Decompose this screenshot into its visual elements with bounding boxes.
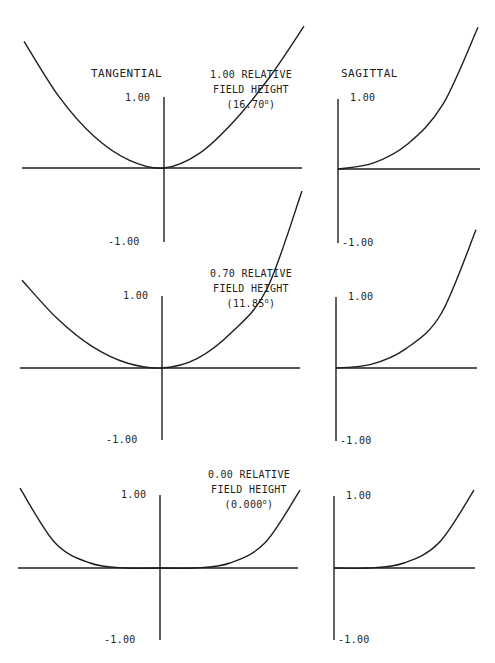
panel-2-field-angle: (11.85o): [196, 296, 306, 311]
panel-2-tangential: [20, 191, 302, 440]
sagittal-header: SAGITTAL: [341, 68, 398, 80]
panel-1-tangential-y-min: -1.00: [108, 236, 140, 248]
ray-aberration-figure: TANGENTIAL SAGITTAL 1.00 RELATIVE FIELD …: [0, 0, 495, 663]
panel-2-tangential-y-min: -1.00: [106, 434, 138, 446]
panel-2-sagittal: [336, 230, 477, 441]
panel-1-sagittal-y-max: 1.00: [350, 92, 375, 104]
panel-2-field-relative: 0.70 RELATIVE: [196, 266, 306, 281]
panel-1-field-angle: (16.70o): [196, 97, 306, 112]
panel-3-field-height: FIELD HEIGHT: [194, 482, 304, 497]
panel-1-field-height: FIELD HEIGHT: [196, 82, 306, 97]
panel-3-field-angle: (0.000o): [194, 497, 304, 512]
panel-3-sagittal-y-max: 1.00: [346, 490, 371, 502]
panel-2-sagittal-y-min: -1.00: [340, 435, 372, 447]
panel-3-sagittal-y-min: -1.00: [338, 634, 370, 646]
panel-3-field-relative: 0.00 RELATIVE: [194, 467, 304, 482]
tangential-header: TANGENTIAL: [91, 68, 162, 80]
panel-2-tangential-y-max: 1.00: [123, 290, 148, 302]
panel-1-sagittal-y-min: -1.00: [342, 237, 374, 249]
panel-1-field-label: 1.00 RELATIVE FIELD HEIGHT (16.70o): [196, 67, 306, 112]
panel-3-tangential-y-min: -1.00: [104, 634, 136, 646]
panel-1-tangential-y-max: 1.00: [125, 92, 150, 104]
panel-3-field-label: 0.00 RELATIVE FIELD HEIGHT (0.000o): [194, 467, 304, 512]
panel-1-field-relative: 1.00 RELATIVE: [196, 67, 306, 82]
panel-1-sagittal: [338, 27, 480, 243]
panel-1-tangential: [22, 26, 304, 242]
panel-2-field-label: 0.70 RELATIVE FIELD HEIGHT (11.85o): [196, 266, 306, 311]
panel-3-tangential-y-max: 1.00: [121, 489, 146, 501]
panel-2-field-height: FIELD HEIGHT: [196, 281, 306, 296]
panel-2-sagittal-y-max: 1.00: [348, 291, 373, 303]
panel-3-sagittal: [334, 490, 475, 640]
